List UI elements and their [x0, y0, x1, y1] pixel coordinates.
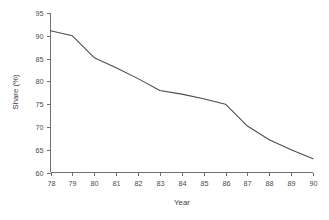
- x-axis-tick-label: 85: [201, 179, 209, 188]
- y-axis-tick-label: 80: [36, 77, 44, 86]
- x-axis-tick-group: [52, 173, 314, 177]
- x-axis-tick-label: 84: [179, 179, 187, 188]
- x-axis-tick-label: 86: [223, 179, 231, 188]
- y-axis-title: Share (%): [11, 74, 20, 110]
- x-axis-title: Year: [174, 198, 190, 207]
- y-axis-tick-labels: 6065707580859095: [36, 9, 44, 178]
- x-axis-tick-label: 87: [244, 179, 252, 188]
- line-chart: 6065707580859095 78798081828384858687888…: [0, 0, 329, 220]
- y-axis-tick-label: 60: [36, 169, 44, 178]
- y-axis-tick-group: [47, 14, 51, 174]
- x-axis-tick-label: 78: [48, 179, 56, 188]
- y-axis-tick-label: 85: [36, 55, 44, 64]
- x-axis-tick-label: 89: [288, 179, 296, 188]
- x-axis-tick-label: 81: [113, 179, 121, 188]
- chart-plot-area: 6065707580859095 78798081828384858687888…: [0, 0, 329, 220]
- x-axis-tick-label: 79: [69, 179, 77, 188]
- x-axis-tick-labels: 78798081828384858687888990: [48, 179, 318, 188]
- data-series-line: [51, 31, 314, 159]
- x-axis-tick-label: 83: [157, 179, 165, 188]
- x-axis-tick-label: 82: [135, 179, 143, 188]
- x-axis-tick-label: 88: [266, 179, 274, 188]
- x-axis-tick-label: 90: [310, 179, 318, 188]
- x-axis-tick-label: 80: [91, 179, 99, 188]
- y-axis-tick-label: 90: [36, 32, 44, 41]
- y-axis-tick-label: 75: [36, 100, 44, 109]
- y-axis-tick-label: 65: [36, 146, 44, 155]
- y-axis-tick-label: 95: [36, 9, 44, 18]
- y-axis-tick-label: 70: [36, 123, 44, 132]
